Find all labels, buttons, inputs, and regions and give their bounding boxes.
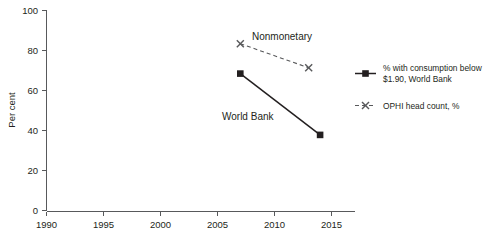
legend-marker-square [362, 70, 369, 77]
line-chart: 100 80 60 40 20 0 Per cent 1990 1995 200… [0, 0, 491, 250]
annotation-nonmonetary: Nonmonetary [252, 31, 312, 42]
y-tick-label-60: 60 [27, 85, 38, 96]
y-axis-title: Per cent [6, 92, 17, 128]
x-axis-ticks [47, 212, 332, 217]
x-tick-label-1995: 1995 [93, 219, 114, 230]
legend-label-world-bank-line2: $1.90, World Bank [383, 74, 453, 84]
legend-label-world-bank-line1: % with consumption below [383, 63, 483, 73]
chart-legend: % with consumption below $1.90, World Ba… [355, 63, 483, 111]
x-tick-label-2015: 2015 [321, 219, 342, 230]
legend-label-ophi: OPHI head count, % [383, 101, 460, 111]
x-tick-label-2000: 2000 [150, 219, 171, 230]
y-tick-label-0: 0 [33, 205, 38, 216]
y-tick-label-40: 40 [27, 125, 38, 136]
legend-item-world-bank[interactable]: % with consumption below $1.90, World Ba… [355, 63, 483, 84]
marker-world-bank-2014 [317, 132, 324, 139]
marker-world-bank-2007 [237, 70, 244, 77]
marker-ophi-2007 [237, 40, 244, 47]
x-tick-label-2010: 2010 [264, 219, 285, 230]
legend-item-ophi[interactable]: OPHI head count, % [355, 101, 460, 111]
y-tick-label-100: 100 [22, 5, 38, 16]
series-line-world-bank [240, 74, 320, 135]
x-tick-label-2005: 2005 [207, 219, 228, 230]
chart-page: 100 80 60 40 20 0 Per cent 1990 1995 200… [0, 0, 491, 250]
y-axis-ticks [42, 11, 47, 211]
y-tick-label-80: 80 [27, 45, 38, 56]
series-line-ophi [240, 44, 308, 68]
marker-ophi-2013 [305, 64, 312, 71]
x-tick-label-1990: 1990 [36, 219, 57, 230]
y-tick-label-20: 20 [27, 165, 38, 176]
annotation-world-bank: World Bank [222, 111, 275, 122]
